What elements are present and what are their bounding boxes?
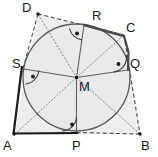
label-C: C [126, 21, 135, 34]
vertex-dot-B [138, 132, 141, 135]
center-dot-M [75, 76, 78, 79]
vertex-dot-D [36, 12, 39, 15]
label-S: S [12, 57, 21, 70]
label-D: D [22, 1, 31, 14]
label-M: M [79, 80, 90, 93]
label-R: R [92, 9, 101, 22]
geometry-figure: A B C D M P Q R S [0, 0, 158, 157]
side-AP-solid [13, 133, 78, 134]
vertex-dot-A [12, 132, 15, 135]
label-P: P [72, 139, 81, 152]
label-B: B [141, 139, 150, 152]
label-Q: Q [130, 57, 140, 70]
label-A: A [3, 139, 12, 152]
